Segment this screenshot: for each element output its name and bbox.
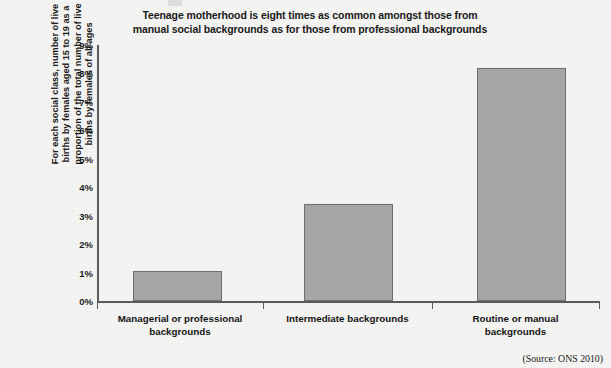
y-tick-label: 7%	[59, 96, 93, 107]
chart-title-line-1: Teenage motherhood is eight times as com…	[70, 8, 550, 22]
x-category-label-3-line-1: Routine or manual	[432, 313, 599, 326]
y-tick-label: 8%	[59, 68, 93, 79]
chart-title-line-2: manual social backgrounds as for those f…	[70, 22, 550, 36]
y-axis-tick-labels: 0%1%2%3%4%5%6%7%8%9%	[55, 0, 93, 368]
x-category-label-3-line-2: backgrounds	[432, 326, 599, 339]
bar-2[interactable]	[304, 204, 393, 301]
y-tick-label: 6%	[59, 125, 93, 136]
page-top-artifact	[168, 0, 182, 6]
x-category-label-1-line-1: Managerial or professional	[97, 313, 263, 326]
y-tick-label: 5%	[59, 153, 93, 164]
y-tick-label: 4%	[59, 182, 93, 193]
bar-3[interactable]	[477, 68, 566, 301]
y-tick-label: 1%	[59, 267, 93, 278]
x-category-label-3: Routine or manualbackgrounds	[432, 313, 599, 338]
chart-title: Teenage motherhood is eight times as com…	[70, 8, 550, 36]
bar-1[interactable]	[133, 271, 222, 301]
x-axis-tick	[263, 302, 264, 309]
x-category-label-2-line-1: Intermediate backgrounds	[263, 313, 432, 326]
plot-area	[97, 45, 600, 301]
x-axis-tick	[599, 302, 600, 309]
y-tick-label: 0%	[59, 296, 93, 307]
x-category-label-2: Intermediate backgrounds	[263, 313, 432, 326]
x-axis-tick	[432, 302, 433, 309]
x-category-label-1: Managerial or professionalbackgrounds	[97, 313, 263, 338]
source-note: (Source: ONS 2010)	[522, 353, 603, 364]
x-axis-line	[97, 301, 600, 303]
chart-page: Teenage motherhood is eight times as com…	[0, 0, 611, 368]
y-tick-label: 3%	[59, 210, 93, 221]
y-tick-label: 2%	[59, 239, 93, 250]
x-axis-tick	[97, 302, 98, 309]
x-category-label-1-line-2: backgrounds	[97, 326, 263, 339]
y-tick-label: 9%	[59, 40, 93, 51]
